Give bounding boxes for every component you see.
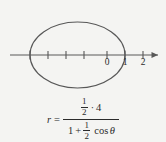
equation-main-fraction: 1 2 · 4 1 + 1 2 xyxy=(63,97,119,142)
ellipse-plot-svg xyxy=(0,0,166,98)
denominator-plus-sign: + xyxy=(74,125,82,136)
conic-section-figure: 0 1 2 r = 1 2 · 4 xyxy=(0,0,166,142)
denominator-half-top: 1 xyxy=(84,121,91,130)
equation-denominator: 1 + 1 2 cos θ xyxy=(64,121,118,142)
numerator-half-bottom: 2 xyxy=(81,108,88,117)
equation-equals-sign: = xyxy=(53,114,63,125)
axis-tick-label-0: 0 xyxy=(101,57,113,67)
ellipse-plot-area: 0 1 2 xyxy=(0,0,166,98)
polar-equation: r = 1 2 · 4 1 + xyxy=(0,96,166,142)
denominator-cosine-function: cos xyxy=(91,125,108,136)
denominator-half-bottom: 2 xyxy=(84,132,91,141)
numerator-half-fraction: 1 2 xyxy=(81,97,88,118)
axis-tick-label-2: 2 xyxy=(137,57,149,67)
denominator-half-fraction: 1 2 xyxy=(83,121,90,142)
numerator-half-top: 1 xyxy=(81,97,88,106)
x-axis-arrowhead-icon xyxy=(152,52,159,58)
equation-numerator: 1 2 · 4 xyxy=(77,97,106,118)
denominator-theta-symbol: θ xyxy=(108,125,115,136)
equation-fraction-bar xyxy=(63,119,119,120)
axis-tick-label-1: 1 xyxy=(119,57,131,67)
denominator-leading-term: 1 xyxy=(67,125,74,136)
numerator-factor: 4 xyxy=(95,102,102,113)
equation-row: r = 1 2 · 4 1 + xyxy=(47,97,119,142)
